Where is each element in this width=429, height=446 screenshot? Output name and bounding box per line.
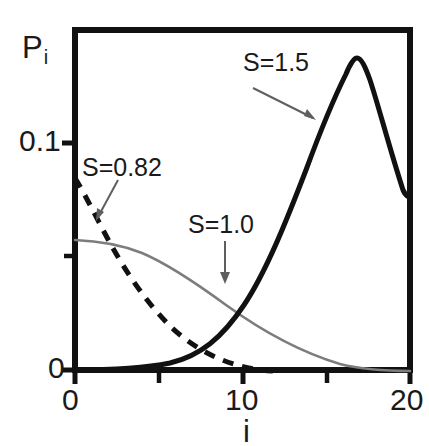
y-axis-title-main: P <box>22 30 43 65</box>
curve-s-0.82 <box>75 178 276 371</box>
chart-figure: Pi 0.1 0 0 10 20 i S=1.5 S=0.82 S=1.0 <box>0 0 429 446</box>
axis-frame <box>75 30 410 370</box>
y-axis-title: Pi <box>22 32 48 67</box>
x-tick-label-0: 0 <box>62 385 79 415</box>
series-label-s-0.82: S=0.82 <box>82 155 162 180</box>
y-tick-label-0: 0 <box>48 353 65 383</box>
annotation-arrow-s-0.82 <box>96 180 118 221</box>
annotation-arrow-s-1.5 <box>253 88 316 120</box>
x-axis-title: i <box>243 416 250 446</box>
x-tick-label-20: 20 <box>390 385 423 415</box>
y-axis-title-subscript: i <box>44 46 48 68</box>
series-label-s-1.5: S=1.5 <box>243 50 309 75</box>
x-tick-label-10: 10 <box>225 385 258 415</box>
y-tick-label-0.1: 0.1 <box>19 126 61 156</box>
annotation-arrow-s-1.0 <box>220 241 230 284</box>
series-label-s-1.0: S=1.0 <box>188 212 254 237</box>
